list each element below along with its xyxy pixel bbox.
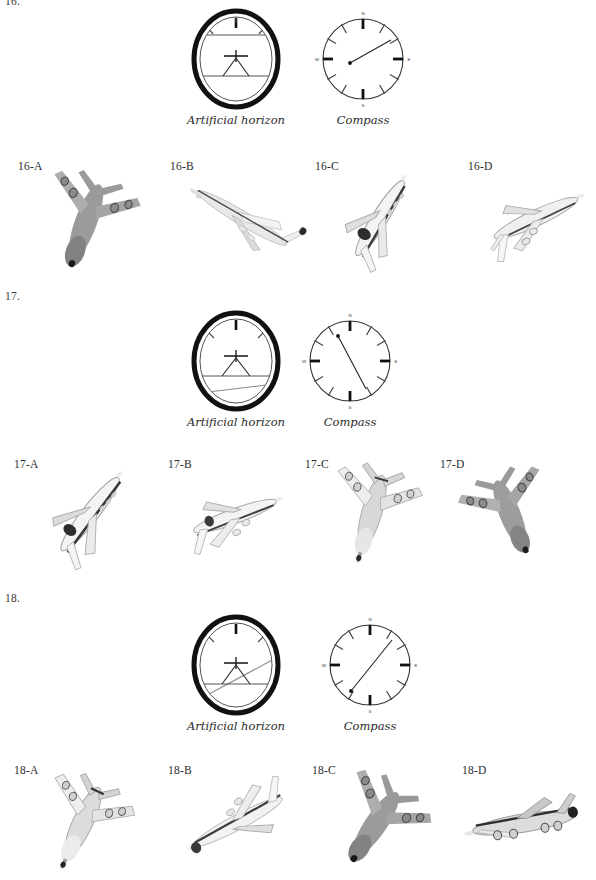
- aircraft-image-16-C[interactable]: [315, 168, 445, 268]
- compass-icon: N S E W: [320, 614, 420, 717]
- answer-row-18: 18-A: [0, 764, 596, 880]
- compass-icon: N S E W: [313, 8, 413, 111]
- instrument-row: Artificial horizon: [0, 308, 596, 438]
- aircraft-image-18-D[interactable]: [454, 778, 594, 868]
- compass-label-east: E: [415, 663, 418, 668]
- compass-caption: Compass: [300, 415, 400, 429]
- artificial-horizon-icon: [186, 308, 286, 413]
- aircraft-image-16-B[interactable]: [172, 168, 312, 268]
- artificial-horizon-icon: [186, 612, 286, 717]
- artificial-horizon-17: Artificial horizon: [186, 308, 286, 429]
- aircraft-image-17-A[interactable]: [20, 464, 160, 564]
- compass-label-north: N: [348, 313, 351, 318]
- artificial-horizon-caption: Artificial horizon: [186, 113, 286, 127]
- airplane-icon: [168, 772, 308, 872]
- option-label: 18-D: [462, 764, 486, 776]
- instrument-row: Artificial horizon: [0, 6, 596, 136]
- compass-label-north: N: [368, 617, 371, 622]
- aircraft-image-17-B[interactable]: [168, 468, 303, 563]
- compass-label-south: S: [362, 103, 365, 108]
- airplane-icon: [26, 170, 146, 275]
- compass-label-east: E: [408, 57, 411, 62]
- aircraft-image-18-B[interactable]: [168, 772, 308, 872]
- compass-label-west: W: [302, 359, 307, 364]
- compass-16: N S E W Compass: [313, 8, 413, 127]
- compass-18: N S E W Compass: [320, 614, 420, 733]
- compass-label-north: N: [361, 11, 364, 16]
- compass-label-south: S: [349, 405, 352, 410]
- airplane-icon: [18, 770, 148, 875]
- compass-caption: Compass: [320, 719, 420, 733]
- airplane-icon: [307, 460, 437, 565]
- airplane-icon: [168, 468, 303, 563]
- question-block-16: 16.: [0, 0, 596, 285]
- aircraft-image-17-D[interactable]: [448, 464, 573, 564]
- compass-icon: N S E W: [300, 310, 400, 413]
- airplane-icon: [472, 168, 596, 268]
- instrument-row: Artificial horizon: [0, 612, 596, 742]
- airplane-icon: [20, 464, 160, 564]
- question-number: 18.: [5, 592, 20, 604]
- question-number: 17.: [5, 290, 20, 302]
- artificial-horizon-16: Artificial horizon: [186, 6, 286, 127]
- compass-label-west: W: [322, 663, 327, 668]
- answer-row-16: 16-A: [0, 160, 596, 280]
- compass-label-east: E: [395, 359, 398, 364]
- compass-17: N S E W Compass: [300, 310, 400, 429]
- compass-label-west: W: [315, 57, 320, 62]
- question-block-18: 18.: [0, 592, 596, 880]
- test-page: 16.: [0, 0, 596, 880]
- airplane-icon: [315, 168, 445, 268]
- aircraft-image-16-A[interactable]: [26, 170, 146, 275]
- artificial-horizon-18: Artificial horizon: [186, 612, 286, 733]
- airplane-icon: [172, 168, 312, 268]
- airplane-icon: [448, 464, 573, 564]
- compass-label-south: S: [369, 709, 372, 714]
- aircraft-image-18-C[interactable]: [316, 772, 436, 877]
- artificial-horizon-icon: [186, 6, 286, 111]
- aircraft-image-16-D[interactable]: [472, 168, 596, 268]
- answer-row-17: 17-A: [0, 458, 596, 578]
- question-block-17: 17.: [0, 290, 596, 580]
- aircraft-image-17-C[interactable]: [307, 460, 437, 565]
- artificial-horizon-caption: Artificial horizon: [186, 415, 286, 429]
- airplane-icon: [454, 778, 594, 868]
- airplane-icon: [316, 772, 436, 877]
- artificial-horizon-caption: Artificial horizon: [186, 719, 286, 733]
- compass-caption: Compass: [313, 113, 413, 127]
- aircraft-image-18-A[interactable]: [18, 770, 148, 875]
